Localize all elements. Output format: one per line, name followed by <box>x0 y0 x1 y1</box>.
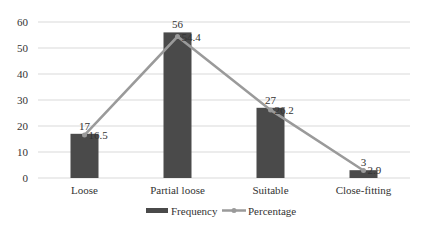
chart-canvas: 0102030405060 175627316.554.426.22.9 Loo… <box>0 0 424 228</box>
x-category-label: Close-fitting <box>336 184 392 196</box>
percentage-value-label: 54.4 <box>182 31 202 43</box>
y-tick-label: 60 <box>17 16 29 28</box>
percentage-marker-icon <box>361 168 366 173</box>
percentage-marker-icon <box>82 133 87 138</box>
frequency-bar <box>164 32 192 178</box>
y-axis: 0102030405060 <box>17 16 29 184</box>
x-category-label: Suitable <box>252 184 288 196</box>
y-tick-label: 20 <box>17 120 29 132</box>
y-tick-label: 30 <box>17 94 29 106</box>
percentage-value-label: 2.9 <box>368 164 382 176</box>
frequency-value-label: 56 <box>172 18 184 30</box>
legend-frequency-label: Frequency <box>171 205 218 217</box>
y-tick-label: 0 <box>23 172 29 184</box>
legend-frequency-swatch-icon <box>146 208 168 213</box>
percentage-value-label: 26.2 <box>275 104 294 116</box>
y-tick-label: 10 <box>17 146 29 158</box>
combo-chart: 0102030405060 175627316.554.426.22.9 Loo… <box>0 0 424 228</box>
percentage-marker-icon <box>268 107 273 112</box>
legend-percentage-label: Percentage <box>248 205 296 217</box>
frequency-bars <box>71 32 378 178</box>
legend: Frequency Percentage <box>146 205 296 217</box>
y-tick-label: 40 <box>17 68 29 80</box>
percentage-marker-icon <box>175 34 180 39</box>
y-tick-label: 50 <box>17 42 29 54</box>
x-category-label: Loose <box>71 184 98 196</box>
frequency-value-label: 3 <box>361 156 367 168</box>
x-axis: LoosePartial looseSuitableClose-fitting <box>71 184 392 196</box>
x-category-label: Partial loose <box>150 184 205 196</box>
percentage-polyline <box>85 37 364 171</box>
percentage-value-label: 16.5 <box>89 129 109 141</box>
frequency-bar <box>257 108 285 178</box>
legend-percentage-marker-icon <box>232 208 237 213</box>
